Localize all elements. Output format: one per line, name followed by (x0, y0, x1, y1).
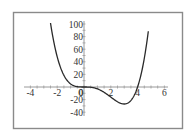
tick-labels: -4-20246100806040200-20-40 (26, 20, 167, 118)
y-tick-label: -40 (70, 108, 83, 118)
x-tick-label: 6 (162, 88, 167, 98)
y-tick-label: 100 (69, 20, 84, 30)
axes (24, 21, 168, 116)
function-plot: -4-20246100806040200-20-40 (0, 0, 194, 133)
plot-frame (14, 13, 183, 129)
x-tick-label: -2 (53, 88, 61, 98)
y-tick-label: 20 (74, 70, 84, 80)
y-tick-label: 60 (74, 45, 84, 55)
y-tick-label: 80 (74, 32, 84, 42)
y-tick-label: -20 (70, 95, 83, 105)
y-tick-label: 40 (74, 57, 84, 67)
function-curve (51, 23, 149, 104)
x-tick-label: -4 (26, 88, 34, 98)
